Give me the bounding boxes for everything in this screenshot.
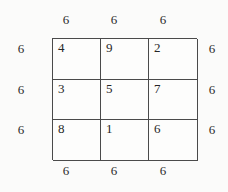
- column-sum-bottom-2: 6: [105, 163, 123, 178]
- grid-cell-r2c2: 5: [101, 80, 149, 120]
- row-sum-left-2: 6: [12, 82, 30, 97]
- grid-cell-r3c3: 6: [149, 120, 198, 161]
- row-sum-left-3: 6: [12, 122, 30, 137]
- column-sum-top-2: 6: [105, 12, 123, 27]
- grid-cell-r2c1: 3: [53, 80, 101, 120]
- magic-square-grid: 4 9 2 3 5 7 8 1 6: [52, 38, 197, 160]
- grid-cell-r3c1: 8: [53, 120, 101, 161]
- grid-cell-r2c3: 7: [149, 80, 198, 120]
- column-sum-top-1: 6: [57, 12, 75, 27]
- column-sum-bottom-3: 6: [154, 163, 172, 178]
- row-sum-right-1: 6: [203, 41, 221, 56]
- grid-cell-r1c2: 9: [101, 39, 149, 80]
- column-sum-bottom-1: 6: [57, 163, 75, 178]
- grid-cell-r3c2: 1: [101, 120, 149, 161]
- grid-cell-r1c1: 4: [53, 39, 101, 80]
- column-sum-top-3: 6: [154, 12, 172, 27]
- grid-cell-r1c3: 2: [149, 39, 198, 80]
- row-sum-right-3: 6: [203, 122, 221, 137]
- row-sum-left-1: 6: [12, 41, 30, 56]
- magic-square-figure: 6 6 6 6 6 6 6 6 6 6 6 6 4 9 2 3 5 7 8 1 …: [0, 0, 228, 192]
- row-sum-right-2: 6: [203, 82, 221, 97]
